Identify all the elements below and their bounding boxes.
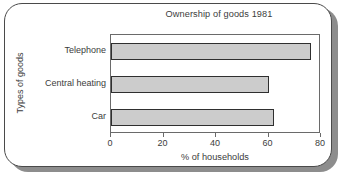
bar-central-heating <box>111 76 269 93</box>
x-tick-label: 0 <box>95 138 125 148</box>
x-tick-label: 40 <box>200 138 230 148</box>
x-tick-mark <box>215 133 216 137</box>
x-tick-label: 60 <box>253 138 283 148</box>
x-tick-label: 20 <box>148 138 178 148</box>
category-label-central-heating: Central heating <box>45 75 106 92</box>
bar-chart-figure: Ownership of goods 1981 Types of goods T… <box>0 0 340 179</box>
category-label-group: Telephone Central heating Car <box>18 34 106 133</box>
x-tick-mark <box>163 133 164 137</box>
x-tick-label: 80 <box>305 138 335 148</box>
x-axis-title: % of households <box>110 152 320 162</box>
x-tick-mark <box>110 133 111 137</box>
bar-telephone <box>111 43 311 60</box>
chart-title: Ownership of goods 1981 <box>112 9 326 19</box>
bar-car <box>111 109 274 126</box>
x-tick-mark <box>320 133 321 137</box>
category-label-telephone: Telephone <box>64 42 106 59</box>
x-tick-mark <box>268 133 269 137</box>
category-label-car: Car <box>91 108 106 125</box>
plot-area <box>110 34 320 133</box>
